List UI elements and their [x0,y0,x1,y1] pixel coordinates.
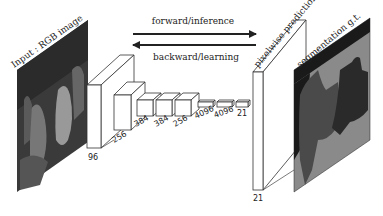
fcn-architecture-diagram: Input : RGB image forward/inference back… [0,0,383,216]
input-rgb-image [17,20,88,192]
layer-conv1-label: 96 [88,153,98,162]
forward-label: forward/inference [152,16,234,26]
layer-prediction-label: 21 [253,194,263,203]
layer-fc7-label: 4096 [213,104,235,119]
layer-score-label: 21 [237,109,247,118]
backward-label: backward/learning [153,52,239,62]
layer-score-box [236,100,250,107]
